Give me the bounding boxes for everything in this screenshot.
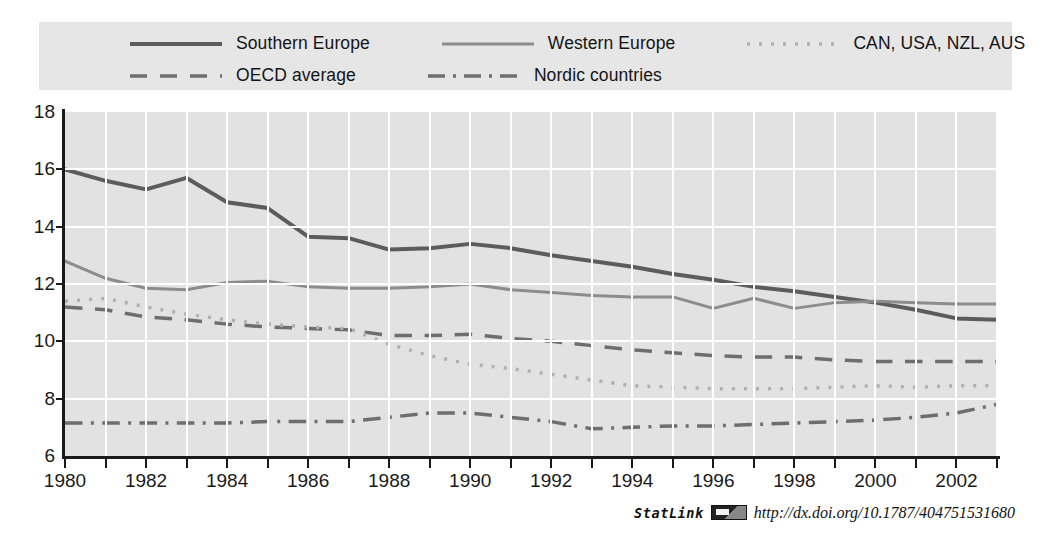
gridline-vertical (145, 112, 147, 456)
x-axis-tick-label: 1992 (530, 470, 572, 492)
gridline-horizontal (65, 283, 997, 285)
legend-item-nordic-countries: Nordic countries (428, 65, 662, 86)
gridline-vertical (834, 112, 836, 456)
gridline-vertical (753, 112, 755, 456)
y-axis-tick-mark (56, 340, 65, 342)
y-axis-tick-label: 12 (11, 273, 55, 295)
legend-swatch-can-usa-nzl-aus (747, 37, 839, 51)
gridline-vertical (996, 112, 998, 456)
gridline-horizontal (65, 398, 997, 400)
y-axis-tick-label: 8 (11, 388, 55, 410)
x-axis-tick-mark (105, 459, 107, 468)
legend-label-can-usa-nzl-aus: CAN, USA, NZL, AUS (853, 33, 1025, 54)
gridline-vertical (105, 112, 107, 456)
x-axis-tick-mark (753, 459, 755, 468)
x-axis-tick-mark (469, 459, 471, 468)
gridline-vertical (186, 112, 188, 456)
x-axis-tick-mark (955, 459, 957, 468)
x-axis-tick-mark (267, 459, 269, 468)
series-line-nordic-countries (65, 404, 997, 428)
x-axis-tick-label: 1996 (692, 470, 734, 492)
x-axis-tick-label: 1980 (44, 470, 86, 492)
x-axis-tick-mark (348, 459, 350, 468)
legend-item-southern-europe: Southern Europe (130, 33, 370, 54)
gridline-vertical (510, 112, 512, 456)
x-axis-tick-mark (64, 459, 66, 468)
legend-swatch-western-europe (442, 37, 534, 51)
legend-row-1: Southern Europe Western Europe CAN, USA,… (130, 33, 1025, 54)
x-axis-tick-label: 1994 (611, 470, 653, 492)
gridline-vertical (429, 112, 431, 456)
legend-item-oecd-average: OECD average (130, 65, 356, 86)
gridline-vertical (591, 112, 593, 456)
x-axis-tick-mark (550, 459, 552, 468)
legend-item-western-europe: Western Europe (442, 33, 676, 54)
legend-label-oecd-average: OECD average (236, 65, 356, 86)
y-axis-tick-mark (56, 226, 65, 228)
plot-area (65, 112, 997, 456)
legend-item-can-usa-nzl-aus: CAN, USA, NZL, AUS (747, 33, 1025, 54)
x-axis-tick-label: 1986 (287, 470, 329, 492)
y-axis-tick-mark (56, 398, 65, 400)
x-axis-tick-mark (307, 459, 309, 468)
x-axis-tick-mark (510, 459, 512, 468)
x-axis-tick-mark (672, 459, 674, 468)
line-chart: 681012141618 198019821984198619881990199… (0, 96, 1051, 496)
y-axis-tick-label: 6 (11, 445, 55, 467)
legend-label-western-europe: Western Europe (548, 33, 676, 54)
gridline-vertical (955, 112, 957, 456)
statlink-url[interactable]: http://dx.doi.org/10.1787/404751531680 (754, 504, 1015, 521)
y-axis-tick-mark (56, 283, 65, 285)
gridline-horizontal (65, 226, 997, 228)
x-axis-tick-mark (834, 459, 836, 468)
legend-swatch-southern-europe (130, 37, 222, 51)
gridline-vertical (469, 112, 471, 456)
x-axis-tick-mark (226, 459, 228, 468)
gridline-horizontal (65, 168, 997, 170)
x-axis-tick-mark (631, 459, 633, 468)
gridline-vertical (267, 112, 269, 456)
gridline-vertical (307, 112, 309, 456)
legend-row-2: OECD average Nordic countries (130, 65, 662, 86)
x-axis-tick-mark (429, 459, 431, 468)
x-axis-tick-mark (591, 459, 593, 468)
x-axis-tick-label: 2000 (854, 470, 896, 492)
gridline-vertical (550, 112, 552, 456)
chart-legend: Southern Europe Western Europe CAN, USA,… (39, 22, 1012, 90)
x-axis-tick-mark (145, 459, 147, 468)
gridline-vertical (874, 112, 876, 456)
x-axis-tick-label: 1990 (449, 470, 491, 492)
x-axis-tick-mark (712, 459, 714, 468)
legend-label-nordic-countries: Nordic countries (534, 65, 662, 86)
series-line-can-usa-nzl-aus (65, 298, 997, 388)
statlink-barcode-icon (711, 505, 747, 520)
y-axis-tick-label: 14 (11, 216, 55, 238)
x-axis-tick-mark (793, 459, 795, 468)
x-axis-tick-mark (186, 459, 188, 468)
x-axis-tick-label: 1988 (368, 470, 410, 492)
y-axis-tick-label: 10 (11, 330, 55, 352)
series-line-southern-europe (65, 169, 997, 320)
gridline-horizontal (65, 340, 997, 342)
x-axis-tick-mark (996, 459, 998, 468)
gridline-vertical (712, 112, 714, 456)
gridline-vertical (672, 112, 674, 456)
x-axis-tick-label: 1998 (773, 470, 815, 492)
gridline-vertical (226, 112, 228, 456)
legend-label-southern-europe: Southern Europe (236, 33, 370, 54)
x-axis-line (62, 456, 1000, 459)
gridline-vertical (915, 112, 917, 456)
statlink-label: StatLink (634, 505, 704, 521)
y-axis-tick-label: 16 (11, 158, 55, 180)
gridline-vertical (793, 112, 795, 456)
x-axis-tick-label: 1984 (206, 470, 248, 492)
gridline-vertical (348, 112, 350, 456)
y-axis-tick-label: 18 (11, 101, 55, 123)
gridline-vertical (388, 112, 390, 456)
legend-swatch-oecd-average (130, 69, 222, 83)
gridline-vertical (631, 112, 633, 456)
x-axis-tick-mark (388, 459, 390, 468)
series-line-oecd-average (65, 307, 997, 361)
statlink-footer: StatLinkhttp://dx.doi.org/10.1787/404751… (0, 504, 1015, 522)
x-axis-tick-label: 1982 (125, 470, 167, 492)
